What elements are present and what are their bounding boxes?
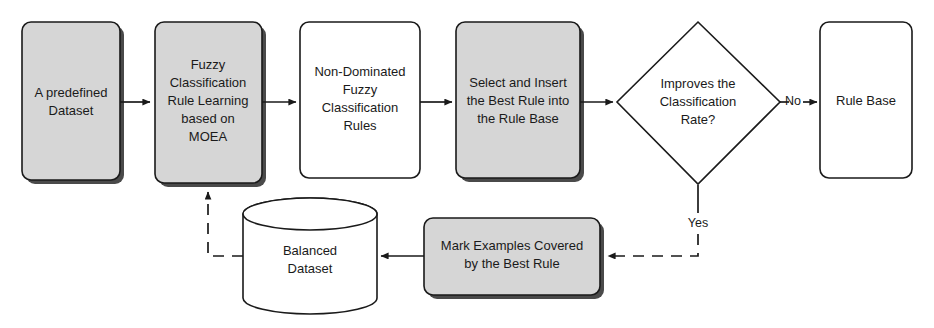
node-balanced-dataset-label: Dataset <box>288 261 333 276</box>
node-fuzzy-rule-learning[interactable]: Fuzzy Classification Rule Learning based… <box>155 22 262 183</box>
node-improves-classification-rate[interactable]: Improves the Classification Rate? <box>617 22 780 184</box>
node-balanced-dataset-top <box>243 198 377 230</box>
node-rule-base[interactable]: Rule Base <box>820 22 912 178</box>
node-improves-classification-rate-label: Improves the <box>660 76 735 91</box>
node-predefined-dataset[interactable]: A predefined Dataset <box>22 22 120 180</box>
node-select-insert-best-rule-label: Select and Insert <box>469 75 567 90</box>
edge-label-yes: Yes <box>688 216 708 230</box>
node-predefined-dataset-label: A predefined <box>34 85 107 100</box>
node-fuzzy-rule-learning-label: MOEA <box>189 129 228 144</box>
node-non-dominated-rules-label: Non-Dominated <box>314 64 405 79</box>
edge-yes-to-mark-examples <box>608 234 698 256</box>
node-improves-classification-rate-label: Classification <box>660 94 737 109</box>
node-rule-base-label: Rule Base <box>836 93 896 108</box>
node-non-dominated-rules-label: Fuzzy <box>343 82 378 97</box>
edge-balanced-to-learning <box>208 192 243 256</box>
node-fuzzy-rule-learning-label: Rule Learning <box>168 93 249 108</box>
node-mark-examples-covered[interactable]: Mark Examples Covered by the Best Rule <box>424 218 600 295</box>
node-non-dominated-rules[interactable]: Non-Dominated Fuzzy Classification Rules <box>300 22 420 178</box>
node-non-dominated-rules-label: Classification <box>322 100 399 115</box>
flowchart-canvas: A predefined Dataset Fuzzy Classificatio… <box>0 0 934 328</box>
node-fuzzy-rule-learning-label: based on <box>181 111 235 126</box>
node-improves-classification-rate-label: Rate? <box>681 112 716 127</box>
node-non-dominated-rules-label: Rules <box>343 118 377 133</box>
node-select-insert-best-rule-label: the Best Rule into <box>467 93 570 108</box>
flowchart-svg: A predefined Dataset Fuzzy Classificatio… <box>0 0 934 328</box>
node-balanced-dataset-label: Balanced <box>283 243 337 258</box>
node-select-insert-best-rule-label: the Rule Base <box>477 111 559 126</box>
node-fuzzy-rule-learning-label: Classification <box>170 75 247 90</box>
node-select-insert-best-rule[interactable]: Select and Insert the Best Rule into the… <box>456 22 580 178</box>
node-predefined-dataset-label: Dataset <box>49 103 94 118</box>
node-mark-examples-covered-label: by the Best Rule <box>464 256 559 271</box>
node-predefined-dataset-shape[interactable] <box>22 22 120 180</box>
node-mark-examples-covered-label: Mark Examples Covered <box>441 238 583 253</box>
node-fuzzy-rule-learning-label: Fuzzy <box>191 57 226 72</box>
edge-label-no: No <box>785 94 801 108</box>
node-balanced-dataset[interactable]: Balanced Dataset <box>243 198 377 314</box>
